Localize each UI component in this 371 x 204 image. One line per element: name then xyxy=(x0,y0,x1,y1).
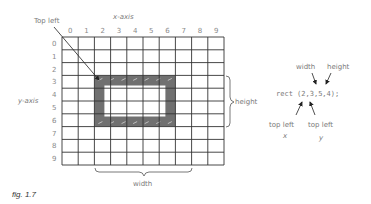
x-ticks: 0123456789 xyxy=(68,27,218,35)
x-tick-label: 8 xyxy=(198,27,202,35)
height-brace xyxy=(226,76,234,127)
y-tick-label: 5 xyxy=(52,104,56,112)
diagram-canvas: x-axis y-axis 0123456789 0123456789 Top … xyxy=(0,0,371,204)
y-tick-label: 1 xyxy=(52,53,56,61)
code-height-label: height xyxy=(327,63,350,71)
y-ticks: 0123456789 xyxy=(52,40,57,163)
y-tick-label: 6 xyxy=(52,117,57,125)
top-left-y-arrow xyxy=(310,102,315,115)
x-axis-label: x-axis xyxy=(112,13,134,21)
top-left-x-var: x xyxy=(282,132,288,140)
top-left-label: Top left xyxy=(33,17,60,25)
y-tick-label: 4 xyxy=(52,91,57,99)
top-left-y-var: y xyxy=(318,134,324,142)
height-label: height xyxy=(235,98,258,106)
y-axis-label: y-axis xyxy=(17,97,39,105)
x-tick-label: 9 xyxy=(214,27,218,35)
figure-caption: fig. 1.7 xyxy=(12,190,37,199)
x-tick-label: 3 xyxy=(117,27,121,35)
grid xyxy=(62,37,224,165)
y-tick-label: 8 xyxy=(52,142,56,150)
width-arrow xyxy=(312,73,316,84)
y-tick-label: 9 xyxy=(52,155,56,163)
top-left-x-arrow xyxy=(296,102,302,115)
y-tick-label: 3 xyxy=(52,78,56,86)
top-left-arrow xyxy=(54,27,99,80)
x-tick-label: 1 xyxy=(84,27,88,35)
x-tick-label: 7 xyxy=(182,27,186,35)
height-arrow xyxy=(326,73,331,84)
code-width-label: width xyxy=(296,63,315,71)
x-tick-label: 6 xyxy=(165,27,170,35)
top-left-x-label: top left xyxy=(269,121,294,129)
x-tick-label: 2 xyxy=(101,27,105,35)
code-text: rect (2,3,5,4); xyxy=(276,90,339,98)
width-brace xyxy=(95,168,192,176)
width-label: width xyxy=(133,180,152,188)
y-tick-label: 7 xyxy=(52,130,56,138)
y-tick-label: 2 xyxy=(52,66,56,74)
x-tick-label: 0 xyxy=(68,27,72,35)
y-tick-label: 0 xyxy=(52,40,56,48)
top-left-y-label: top left xyxy=(308,121,333,129)
x-tick-label: 5 xyxy=(149,27,153,35)
x-tick-label: 4 xyxy=(133,27,138,35)
